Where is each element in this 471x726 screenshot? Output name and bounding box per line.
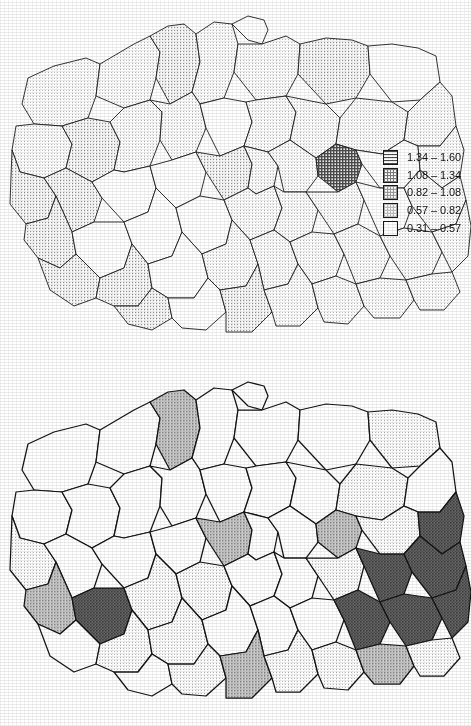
map-region (22, 424, 100, 492)
map-region (110, 466, 162, 538)
legend-item: 0.57 – 0.82 (383, 202, 461, 220)
map-region (96, 36, 160, 108)
two-panel-choropleth-figure: 1.34 – 1.60 1.08 – 1.34 0.82 – 1.08 0.57… (0, 0, 471, 726)
legend-item: 0.82 – 1.08 (383, 184, 461, 202)
legend-item: 1.34 – 1.60 (383, 149, 461, 167)
map-region (234, 402, 300, 466)
map-region (110, 100, 162, 172)
poland-map-bottom (0, 360, 471, 726)
map-region (406, 638, 460, 676)
map-region (232, 382, 268, 410)
map-region (356, 644, 414, 684)
map-region (298, 38, 370, 104)
legend-label: 1.08 – 1.34 (407, 170, 461, 181)
map-region (22, 58, 100, 126)
legend-label: 0.31 – 0.57 (407, 223, 461, 234)
map-region (232, 16, 268, 44)
legend-label: 0.82 – 1.08 (407, 187, 461, 198)
map-region (96, 402, 160, 474)
legend-swatch-light-stipple (383, 185, 398, 200)
legend-label: 0.57 – 0.82 (407, 205, 461, 216)
map-region (234, 36, 300, 100)
map-region (298, 404, 370, 470)
map-panel-bottom: ≤ 0.45 0.45–0.55 0.55–0.92 0.92–1.17 > 1… (0, 360, 471, 726)
map-region (380, 594, 442, 646)
map-region (356, 278, 414, 318)
legend-swatch-medium-stipple (383, 168, 398, 183)
legend-swatch-dense-crosshatch (383, 150, 398, 165)
map-region (406, 272, 460, 310)
legend-item: 0.31 – 0.57 (383, 219, 461, 237)
legend-label: 1.34 – 1.60 (407, 152, 461, 163)
map-panel-top: 1.34 – 1.60 1.08 – 1.34 0.82 – 1.08 0.57… (0, 0, 471, 360)
legend-top: 1.34 – 1.60 1.08 – 1.34 0.82 – 1.08 0.57… (383, 149, 461, 237)
legend-swatch-blank (383, 221, 398, 236)
legend-swatch-fine-stipple (383, 203, 398, 218)
legend-item: 1.08 – 1.34 (383, 167, 461, 185)
